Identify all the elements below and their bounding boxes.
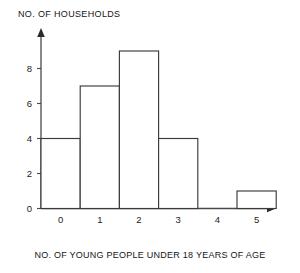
x-tick-label: 5 [254, 214, 259, 225]
bar [80, 86, 119, 209]
y-tick-label: 6 [27, 98, 32, 109]
y-tick-label: 2 [27, 168, 32, 179]
y-tick-group: 02468 [27, 63, 41, 214]
y-tick-label: 8 [27, 63, 32, 74]
plot-area: 02468 012345 [0, 0, 300, 273]
bar [237, 191, 276, 209]
histogram-chart: NO. OF HOUSEHOLDS 02468 012345 NO. OF YO… [0, 0, 300, 273]
x-tick-label: 3 [176, 214, 181, 225]
bar [159, 139, 198, 209]
x-tick-label: 1 [97, 214, 102, 225]
x-tick-label: 4 [215, 214, 220, 225]
bar [41, 139, 80, 209]
x-axis-title: NO. OF YOUNG PEOPLE UNDER 18 YEARS OF AG… [0, 250, 300, 260]
x-tick-label: 2 [136, 214, 141, 225]
y-tick-label: 4 [27, 133, 32, 144]
bar-group [41, 51, 276, 209]
y-tick-label: 0 [27, 203, 32, 214]
x-tick-label: 0 [58, 214, 63, 225]
bar [119, 51, 158, 209]
x-tick-group: 012345 [58, 214, 259, 225]
